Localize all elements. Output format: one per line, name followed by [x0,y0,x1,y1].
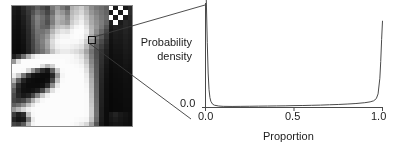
figure-container: Probability density 0.0 0.0 0.5 1.0 Prop… [0,0,402,151]
x-tick-label-1: 0.5 [285,110,300,122]
x-tick-label-2: 1.0 [371,110,386,122]
density-curve [206,0,383,106]
x-tick-label-0: 0.0 [198,110,213,122]
probability-density-plot: 0.0 0.0 0.5 1.0 Proportion [0,0,402,151]
y-tick-label-0: 0.0 [180,97,195,109]
plot-svg [0,0,402,151]
x-axis-label: Proportion [263,130,314,142]
